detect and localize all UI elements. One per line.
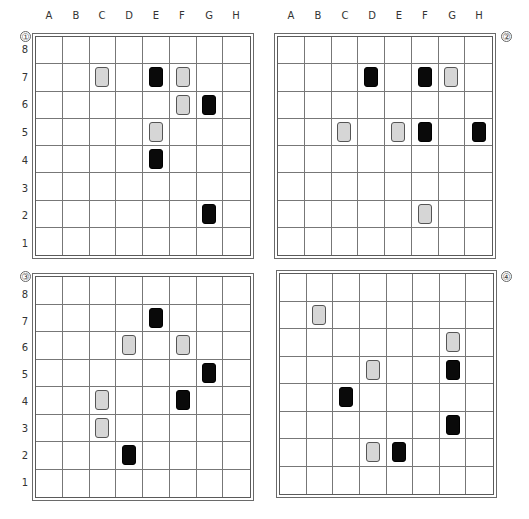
cell-e4 [385, 146, 412, 173]
cell-c5 [90, 360, 117, 388]
gray-card-piece [95, 418, 109, 438]
cell-a6 [36, 92, 63, 119]
cell-c4 [332, 146, 359, 173]
cell-f6 [170, 92, 197, 119]
black-card-piece [418, 122, 432, 142]
cell-g4 [197, 146, 224, 173]
cell-e6 [385, 92, 412, 119]
cell-d2 [116, 442, 143, 470]
cell-b8 [305, 37, 332, 64]
black-card-piece [364, 67, 378, 87]
cell-b4 [307, 384, 334, 412]
cell-g5 [197, 119, 224, 146]
black-card-piece [202, 363, 216, 383]
cell-g1 [197, 470, 224, 498]
cell-b2 [63, 201, 90, 228]
cell-h8 [466, 274, 493, 302]
cell-h4 [223, 387, 250, 415]
cell-f4 [413, 384, 440, 412]
cell-a2 [36, 442, 63, 470]
cell-a1 [36, 470, 63, 498]
cell-a6 [36, 332, 63, 360]
column-label-c: C [335, 10, 355, 21]
cell-b3 [305, 173, 332, 200]
cell-e4 [143, 387, 170, 415]
cell-e2 [143, 201, 170, 228]
cell-d4 [116, 387, 143, 415]
cell-d5 [360, 357, 387, 385]
cell-f1 [170, 470, 197, 498]
cell-b3 [63, 415, 90, 443]
cell-d7 [116, 64, 143, 91]
cell-c8 [333, 274, 360, 302]
gray-card-piece [446, 332, 460, 352]
cell-h2 [223, 201, 250, 228]
cell-c7 [90, 305, 117, 333]
cell-f7 [170, 305, 197, 333]
gray-card-piece [95, 67, 109, 87]
cell-b8 [63, 37, 90, 64]
cell-c5 [333, 357, 360, 385]
gray-card-piece [122, 335, 136, 355]
cell-c4 [90, 387, 117, 415]
cell-d6 [360, 329, 387, 357]
board-1 [32, 33, 254, 259]
cell-g3 [440, 412, 467, 440]
row-label-5: 5 [19, 369, 31, 380]
cell-d5 [358, 119, 385, 146]
black-card-piece [202, 95, 216, 115]
cell-b6 [63, 332, 90, 360]
cell-b7 [307, 302, 334, 330]
cell-c1 [332, 228, 359, 255]
cell-h8 [223, 277, 250, 305]
black-card-piece [202, 204, 216, 224]
cell-f2 [170, 442, 197, 470]
cell-c1 [333, 467, 360, 495]
column-label-e: E [389, 10, 409, 21]
cell-d4 [116, 146, 143, 173]
board-4-grid [279, 273, 494, 495]
cell-d3 [116, 415, 143, 443]
cell-g6 [197, 332, 224, 360]
cell-a5 [278, 119, 305, 146]
cell-h5 [466, 357, 493, 385]
black-card-piece [472, 122, 486, 142]
cell-g1 [440, 467, 467, 495]
cell-c2 [332, 201, 359, 228]
cell-g8 [197, 277, 224, 305]
cell-c7 [90, 64, 117, 91]
cell-e3 [143, 173, 170, 200]
cell-d8 [358, 37, 385, 64]
cell-a1 [278, 228, 305, 255]
cell-b5 [63, 360, 90, 388]
column-label-g: G [199, 10, 219, 21]
cell-a4 [280, 384, 307, 412]
column-label-f: F [415, 10, 435, 21]
cell-c5 [332, 119, 359, 146]
cell-b1 [307, 467, 334, 495]
cell-d3 [358, 173, 385, 200]
column-label-h: H [469, 10, 489, 21]
row-label-7: 7 [19, 72, 31, 83]
gray-card-piece [366, 442, 380, 462]
cell-d5 [116, 119, 143, 146]
cell-b1 [305, 228, 332, 255]
cell-c8 [332, 37, 359, 64]
cell-a6 [278, 92, 305, 119]
cell-f5 [413, 357, 440, 385]
column-label-b: B [66, 10, 86, 21]
cell-f1 [413, 467, 440, 495]
cell-d3 [360, 412, 387, 440]
cell-c6 [332, 92, 359, 119]
cell-g7 [197, 305, 224, 333]
cell-c8 [90, 37, 117, 64]
row-label-4: 4 [19, 396, 31, 407]
column-label-h: H [226, 10, 246, 21]
cell-e3 [143, 415, 170, 443]
cell-g7 [440, 302, 467, 330]
cell-h5 [465, 119, 492, 146]
cell-g2 [439, 201, 466, 228]
board-4-number-badge: ④ [501, 271, 512, 282]
cell-h7 [223, 305, 250, 333]
cell-c1 [90, 228, 117, 255]
